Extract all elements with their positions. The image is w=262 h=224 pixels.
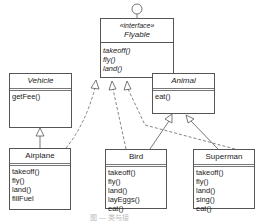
operation: eat() bbox=[155, 92, 212, 101]
operations-list: takeoff() fly() land() layEggs() eat() bbox=[106, 167, 166, 214]
class-name: Flyable bbox=[101, 30, 173, 40]
realization-arrow-icon bbox=[91, 80, 99, 89]
operations-list: eat() bbox=[153, 91, 214, 102]
realization-arrow-icon bbox=[109, 81, 116, 90]
class-airplane[interactable]: Airplane takeoff() fly() land() fillFuel bbox=[9, 148, 71, 210]
operation: sing() bbox=[196, 195, 252, 204]
operations-list: takeoff() fly() land() sing() eat() bbox=[194, 167, 254, 214]
operation: eat() bbox=[196, 204, 252, 213]
operation: takeoff() bbox=[196, 168, 252, 177]
operation: fly() bbox=[108, 177, 164, 186]
class-vehicle[interactable]: Vehicle getFee() bbox=[9, 73, 72, 128]
realization-arrow-icon bbox=[124, 81, 131, 90]
interface-lollipop-icon bbox=[132, 4, 142, 14]
generalization-arrow-icon bbox=[186, 115, 194, 123]
operation: land() bbox=[108, 186, 164, 195]
operations-list: getFee() bbox=[10, 91, 71, 102]
operations-list: takeoff() fly() land() bbox=[101, 43, 173, 74]
figure-caption: 图 — 类与接 bbox=[90, 212, 129, 222]
superman-animal-link bbox=[191, 121, 218, 149]
operation: takeoff() bbox=[108, 168, 164, 177]
bird-animal-link bbox=[150, 121, 169, 149]
generalization-arrow-icon bbox=[36, 128, 44, 136]
class-header: «interface» Flyable bbox=[101, 19, 173, 43]
class-animal[interactable]: Animal eat() bbox=[152, 73, 215, 114]
operation: land() bbox=[196, 186, 252, 195]
class-name: Animal bbox=[153, 74, 214, 91]
class-name: Superman bbox=[194, 150, 254, 167]
operation: land() bbox=[103, 64, 171, 73]
operations-list: takeoff() fly() land() fillFuel bbox=[10, 166, 70, 204]
class-name: Vehicle bbox=[10, 74, 71, 91]
class-flyable[interactable]: «interface» Flyable takeoff() fly() land… bbox=[100, 18, 174, 78]
operation: land() bbox=[12, 185, 68, 194]
operation: fly() bbox=[103, 55, 171, 64]
operation: getFee() bbox=[12, 92, 69, 101]
class-name: Airplane bbox=[10, 149, 70, 166]
operation: fillFuel bbox=[12, 194, 68, 203]
operation: takeoff() bbox=[103, 46, 171, 55]
operation: fly() bbox=[12, 176, 68, 185]
class-name: Bird bbox=[106, 150, 166, 167]
operation: fly() bbox=[196, 177, 252, 186]
stereotype-label: «interface» bbox=[101, 21, 173, 30]
operation: layEggs() bbox=[108, 195, 164, 204]
operation: takeoff() bbox=[12, 167, 68, 176]
bird-flyable-link bbox=[113, 89, 126, 149]
class-superman[interactable]: Superman takeoff() fly() land() sing() e… bbox=[193, 149, 255, 209]
class-bird[interactable]: Bird takeoff() fly() land() layEggs() ea… bbox=[105, 149, 167, 209]
